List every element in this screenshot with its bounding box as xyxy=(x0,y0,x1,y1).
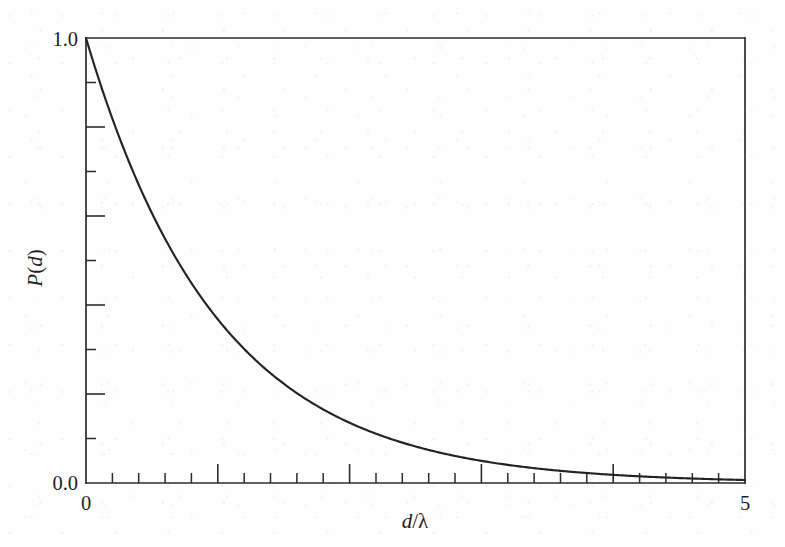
figure-page: 1.0 0.0 0 5 d/λ P(d) xyxy=(0,0,785,547)
y-axis-label-bottom: 0.0 xyxy=(52,472,78,494)
y-axis-ticks xyxy=(86,83,105,439)
x-axis-label-right: 5 xyxy=(740,492,750,514)
y-axis-title-p: P xyxy=(23,274,47,288)
x-axis-ticks xyxy=(112,464,718,483)
y-axis-title-d: d xyxy=(23,256,47,267)
x-axis-title: d/λ xyxy=(402,509,429,533)
plot-frame xyxy=(86,38,745,483)
y-axis-title-close-paren: ) xyxy=(23,249,47,256)
exponential-decay-chart: 1.0 0.0 0 5 d/λ P(d) xyxy=(0,0,785,547)
x-axis-label-left: 0 xyxy=(81,492,91,514)
y-axis-label-top: 1.0 xyxy=(52,28,78,50)
y-axis-title-open-paren: ( xyxy=(23,267,47,274)
x-axis-title-d: d xyxy=(402,509,413,533)
exponential-decay-curve xyxy=(86,38,745,480)
y-axis-title: P(d) xyxy=(23,249,47,287)
x-axis-title-lambda: λ xyxy=(418,509,429,533)
